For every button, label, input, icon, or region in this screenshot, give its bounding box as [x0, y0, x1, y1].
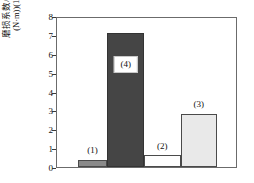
y-axis-title: 磨损系数/(mm³/ (N·m))(10⁻⁴): [2, 0, 36, 64]
bar-value-label: (4): [113, 56, 138, 73]
plot-area: (1)(4)(2)(3): [56, 17, 237, 168]
bar: [107, 33, 144, 167]
bar: [181, 114, 218, 167]
bar: [144, 155, 181, 167]
y-axis-tick-label: 5: [37, 69, 53, 79]
y-axis-tick-label: 0: [37, 163, 53, 173]
bar-chart: 磨损系数/(mm³/ (N·m))(10⁻⁴) 012345678 (1)(4)…: [0, 0, 254, 183]
y-axis-tick-labels: 012345678: [36, 0, 53, 183]
y-axis-tick-label: 3: [37, 106, 53, 116]
y-axis-tick-label: 8: [37, 12, 53, 22]
y-axis-title-line2: (N·m))(10⁻⁴): [12, 0, 22, 64]
y-axis-tick-label: 4: [37, 88, 53, 98]
y-axis-tick-mark: [52, 168, 56, 169]
y-axis-tick-label: 2: [37, 125, 53, 135]
y-axis-tick-label: 6: [37, 50, 53, 60]
y-axis-tick-label: 1: [37, 144, 53, 154]
bar: [78, 160, 108, 167]
bar-value-label: (3): [194, 99, 205, 109]
y-axis-tick-label: 7: [37, 31, 53, 41]
bar-value-label: (2): [157, 141, 168, 151]
bar-value-label: (1): [87, 145, 98, 155]
